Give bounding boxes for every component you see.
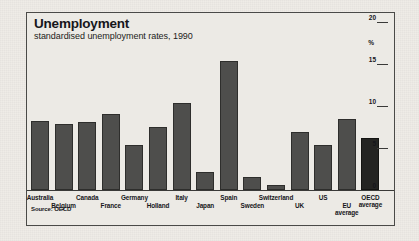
y-tick-label-20: 20 <box>362 14 376 21</box>
bar-australia <box>31 121 49 190</box>
bar-belgium <box>55 124 73 190</box>
source-note: Source: OECD <box>31 206 71 212</box>
bar-holland <box>149 127 167 190</box>
bar-sweden <box>243 177 261 190</box>
plot-area <box>27 13 374 191</box>
y-tick-mark-0 <box>377 190 388 191</box>
axis-baseline <box>27 190 394 191</box>
bar-us <box>314 145 332 190</box>
bar-eu-average <box>338 119 356 190</box>
bar-france <box>102 114 120 190</box>
y-tick-mark-10 <box>377 106 388 107</box>
y-tick-mark-5 <box>377 148 388 149</box>
bar-japan <box>196 172 214 190</box>
bar-italy <box>173 103 191 190</box>
y-axis-unit-label: % <box>368 39 374 46</box>
y-tick-label-15: 15 <box>362 56 376 63</box>
x-label-oecd-average: OECDaverage <box>340 194 400 208</box>
y-tick-label-10: 10 <box>362 98 376 105</box>
y-tick-label-0: 0 <box>362 182 376 189</box>
y-tick-mark-20 <box>377 22 388 23</box>
y-tick-mark-15 <box>377 64 388 65</box>
bar-spain <box>220 61 238 190</box>
bar-germany <box>125 145 143 190</box>
y-tick-label-5: 5 <box>362 140 376 147</box>
bar-canada <box>78 122 96 190</box>
bar-uk <box>291 132 309 190</box>
x-axis-labels: AustraliaBelgiumCanadaFranceGermanyHolla… <box>0 192 419 232</box>
